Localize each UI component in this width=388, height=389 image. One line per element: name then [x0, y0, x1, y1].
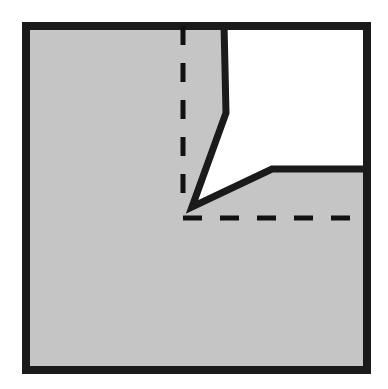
geometric-diagram: [0, 0, 388, 389]
figure-container: [0, 0, 388, 389]
